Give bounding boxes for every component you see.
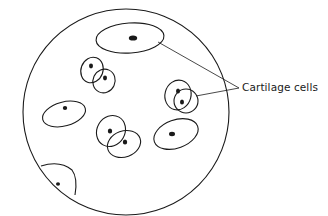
leader-line-right-cluster	[196, 88, 239, 96]
field-of-view-circle	[23, 9, 229, 215]
cartilage-cell-pair-center	[91, 110, 145, 162]
cartilage-cell-pair-upper-left	[77, 54, 119, 97]
cartilage-diagram	[0, 0, 328, 216]
label-cartilage-cells: Cartilage cells	[242, 81, 318, 93]
cartilage-cell-mid-left	[40, 97, 89, 132]
cartilage-cell-lower-right	[150, 113, 203, 155]
cartilage-cell-cluster-right	[162, 77, 198, 113]
leader-line-top-cell	[158, 42, 239, 88]
cartilage-cell-top	[95, 21, 165, 56]
